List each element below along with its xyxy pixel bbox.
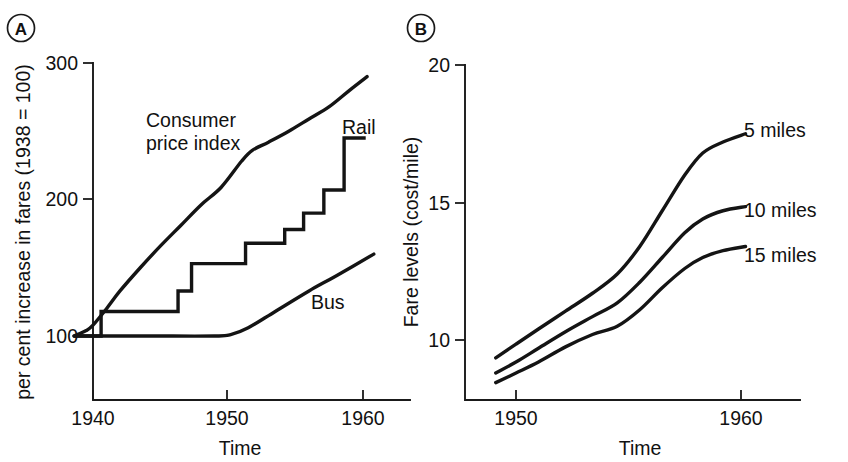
panel-a-letter-badge: A	[8, 15, 35, 42]
panel-a-label-cpi-line2: price index	[146, 132, 241, 154]
panel-b-x-ticks	[516, 390, 741, 400]
panel-a: A 100 200 300 1940 1950 1960 p	[8, 15, 411, 460]
panel-a-label-cpi-line1: Consumer	[146, 109, 236, 131]
panel-b-xtick-label-1950: 1950	[494, 407, 538, 429]
panel-b-letter-badge: B	[408, 15, 435, 42]
panel-a-y-axis-title: per cent increase in fares (1938 = 100)	[12, 64, 34, 400]
panel-a-xtick-label-1940: 1940	[71, 407, 115, 429]
panel-b-label-15-miles: 15 miles	[744, 244, 817, 266]
figure-svg: A 100 200 300 1940 1950 1960 p	[0, 0, 848, 462]
panel-a-y-ticks	[83, 63, 93, 336]
panel-b-ytick-label-10: 10	[428, 329, 450, 351]
panel-b-y-axis-title: Fare levels (cost/mile)	[400, 137, 422, 328]
panel-b-y-ticks	[455, 65, 465, 340]
panel-b-axes	[465, 65, 800, 400]
panel-b-x-axis-title: Time	[619, 437, 662, 459]
panel-a-axes	[93, 63, 410, 400]
panel-a-xtick-label-1960: 1960	[341, 407, 385, 429]
panel-b-series-15-miles	[496, 247, 746, 383]
panel-a-x-axis-title: Time	[219, 437, 262, 459]
panel-a-ytick-label-300: 300	[45, 52, 78, 74]
panel-b-label-10-miles: 10 miles	[744, 199, 817, 221]
panel-b-letter: B	[415, 20, 427, 39]
panel-a-label-rail: Rail	[342, 116, 376, 138]
figure-container: A 100 200 300 1940 1950 1960 p	[0, 0, 848, 462]
panel-b: B 10 15 20 1950 1960 Fare levels (cost/m…	[400, 15, 817, 460]
panel-a-label-bus: Bus	[311, 291, 345, 313]
panel-a-letter: A	[15, 20, 27, 39]
panel-a-x-ticks	[93, 390, 363, 400]
panel-b-xtick-label-1960: 1960	[719, 407, 763, 429]
panel-b-label-5-miles: 5 miles	[744, 119, 806, 141]
panel-a-ytick-label-200: 200	[45, 188, 78, 210]
panel-a-xtick-label-1950: 1950	[205, 407, 249, 429]
panel-b-ytick-label-15: 15	[428, 192, 450, 214]
panel-b-ytick-label-20: 20	[428, 54, 450, 76]
panel-b-series-10-miles	[496, 207, 746, 373]
